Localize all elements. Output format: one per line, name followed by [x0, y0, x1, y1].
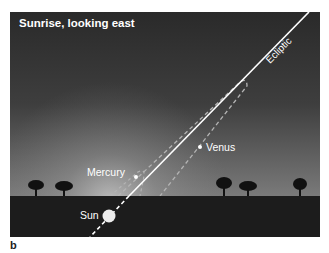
panel-letter: b	[10, 239, 17, 251]
sunrise-glow	[10, 12, 320, 196]
venus-label: Venus	[206, 141, 235, 153]
sun-label: Sun	[80, 209, 99, 221]
sun-icon	[103, 210, 116, 223]
mercury-label: Mercury	[87, 166, 125, 178]
diagram-canvas: Ecliptic	[10, 12, 320, 237]
sunrise-diagram-panel: Ecliptic Sunrise, looking east Mercury V…	[10, 12, 320, 237]
diagram-title: Sunrise, looking east	[19, 17, 135, 29]
mercury-dot	[134, 175, 138, 179]
ground	[10, 196, 320, 237]
venus-dot	[198, 145, 202, 149]
